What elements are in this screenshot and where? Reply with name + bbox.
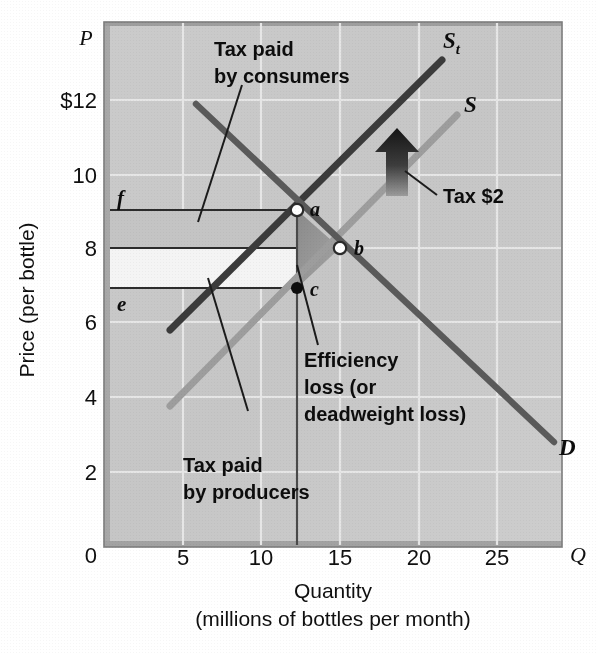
y-tick-label-0: 0 [85, 543, 97, 568]
tax-incidence-diagram: P Q $12 10 8 6 4 2 0 5 10 15 20 25 Price… [0, 0, 597, 653]
x-tick-label-20: 20 [407, 545, 431, 570]
y-axis-title: Price (per bottle) [15, 222, 38, 377]
y-tick-label-6: 6 [85, 310, 97, 335]
annotation-tax-producers-line2: by producers [183, 481, 310, 503]
plot-frame-left-shadow [104, 22, 110, 547]
x-tick-label-15: 15 [328, 545, 352, 570]
annotation-tax-consumers-line2: by consumers [214, 65, 350, 87]
point-e-label: e [117, 292, 126, 316]
y-tick-label-8: 8 [85, 236, 97, 261]
supply-with-tax-label-main: S [443, 28, 456, 53]
y-tick-label-4: 4 [85, 385, 97, 410]
x-axis-symbol: Q [570, 542, 586, 567]
y-axis-symbol: P [78, 25, 92, 50]
x-axis-title: Quantity [294, 579, 373, 602]
point-a-label: a [310, 198, 320, 220]
point-b-marker [334, 242, 346, 254]
demand-label: D [558, 435, 576, 460]
y-tick-label-12: $12 [60, 88, 97, 113]
annotation-tax-arrow-label: Tax $2 [443, 185, 504, 207]
supply-label: S [464, 92, 477, 117]
y-tick-label-10: 10 [73, 163, 97, 188]
point-c-marker [291, 282, 303, 294]
annotation-efficiency-line2: loss (or [304, 376, 376, 398]
y-tick-label-2: 2 [85, 460, 97, 485]
x-axis-subtitle: (millions of bottles per month) [195, 607, 470, 630]
point-a-marker [291, 204, 303, 216]
region-tax-paid-by-producers [110, 249, 297, 288]
annotation-tax-consumers-line1: Tax paid [214, 38, 294, 60]
point-b-label: b [354, 237, 364, 259]
x-tick-label-10: 10 [249, 545, 273, 570]
annotation-efficiency-line3: deadweight loss) [304, 403, 466, 425]
annotation-tax-producers-line1: Tax paid [183, 454, 263, 476]
annotation-efficiency-line1: Efficiency [304, 349, 399, 371]
x-tick-label-5: 5 [177, 545, 189, 570]
point-c-label: c [310, 278, 319, 300]
x-tick-label-25: 25 [485, 545, 509, 570]
